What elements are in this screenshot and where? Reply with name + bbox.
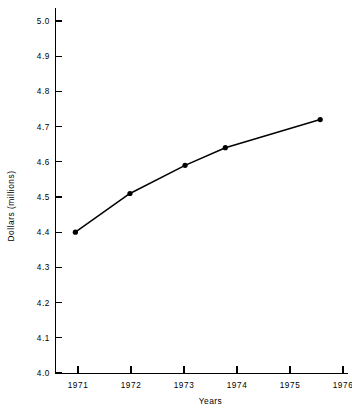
line-chart: 4.04.14.24.34.44.54.64.74.84.95.0 197119…	[0, 0, 352, 410]
x-tick-label: 1974	[227, 381, 248, 390]
y-axis-title: Dollars (millions)	[6, 171, 16, 242]
data-point-marker	[182, 163, 187, 168]
series-group	[73, 117, 323, 235]
y-tick-label: 4.7	[37, 123, 50, 132]
y-tick-label: 4.5	[37, 193, 50, 202]
x-tick-label: 1976	[333, 381, 352, 390]
data-point-marker	[127, 191, 132, 196]
y-tick-label: 4.9	[37, 52, 50, 61]
y-tick-group: 4.04.14.24.34.44.54.64.74.84.95.0	[37, 17, 62, 378]
y-tick-label: 4.0	[37, 369, 50, 378]
x-tick-label: 1975	[280, 381, 301, 390]
x-tick-label: 1972	[121, 381, 142, 390]
x-tick-label: 1973	[174, 381, 195, 390]
y-tick-label: 5.0	[37, 17, 50, 26]
data-point-marker	[318, 117, 323, 122]
data-point-marker	[223, 145, 228, 150]
data-point-marker	[73, 230, 78, 235]
y-tick-label: 4.1	[37, 334, 50, 343]
x-tick-group: 197119721973197419751976	[68, 366, 352, 390]
axes-group	[56, 8, 349, 374]
x-axis-title: Years	[199, 396, 223, 406]
y-tick-label: 4.2	[37, 299, 50, 308]
y-tick-label: 4.8	[37, 87, 50, 96]
chart-canvas: 4.04.14.24.34.44.54.64.74.84.95.0 197119…	[0, 0, 352, 410]
x-tick-label: 1971	[68, 381, 89, 390]
y-tick-label: 4.3	[37, 263, 50, 272]
y-tick-label: 4.4	[37, 228, 50, 237]
series-markers-dollars	[73, 117, 323, 235]
y-tick-label: 4.6	[37, 158, 50, 167]
series-line-dollars	[75, 120, 320, 233]
